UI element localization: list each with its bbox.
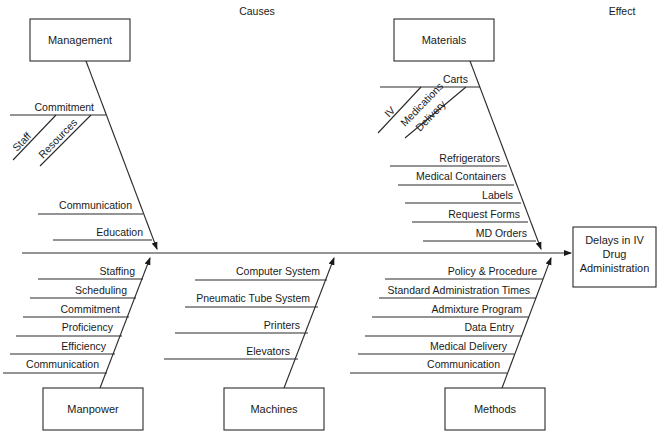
effect-label-line2: Drug bbox=[603, 248, 627, 260]
cause-label-admixture-program: Admixture Program bbox=[432, 303, 523, 315]
cause-label-labels: Labels bbox=[482, 189, 513, 201]
effect-label-line1: Delays in IV bbox=[585, 234, 644, 246]
cause-label-data-entry: Data Entry bbox=[464, 321, 514, 333]
cause-label-printers: Printers bbox=[264, 319, 300, 331]
subcause-label-staff: Staff bbox=[10, 130, 34, 154]
cause-label-scheduling: Scheduling bbox=[75, 284, 127, 296]
category-manpower: Manpower Staffing Scheduling Commitment … bbox=[3, 258, 150, 430]
category-machines: Machines Computer System Pneumatic Tube … bbox=[164, 258, 334, 430]
category-methods: Methods Policy & Procedure Standard Admi… bbox=[350, 258, 551, 430]
cause-label-elevators: Elevators bbox=[246, 345, 290, 357]
cause-label-carts: Carts bbox=[443, 73, 468, 85]
cause-label-request-forms: Request Forms bbox=[448, 208, 520, 220]
cause-label-medical-containers: Medical Containers bbox=[416, 170, 506, 182]
cause-label-education: Education bbox=[96, 226, 143, 238]
cause-label-communication: Communication bbox=[59, 199, 132, 211]
causes-header: Causes bbox=[239, 5, 275, 17]
cause-label-commitment: Commitment bbox=[60, 303, 120, 315]
management-bone bbox=[86, 61, 157, 249]
cause-label-commitment: Commitment bbox=[34, 101, 94, 113]
cause-label-efficiency: Efficiency bbox=[61, 340, 106, 352]
effect-header: Effect bbox=[609, 5, 636, 17]
effect-label-line3: Administration bbox=[580, 262, 650, 274]
category-management: Management Commitment Staff Resources Co… bbox=[10, 19, 157, 249]
cause-label-policy-procedure: Policy & Procedure bbox=[448, 265, 537, 277]
effect-box: Delays in IV Drug Administration bbox=[573, 227, 656, 287]
cause-label-md-orders: MD Orders bbox=[476, 227, 527, 239]
cause-label-computer-system: Computer System bbox=[236, 265, 320, 277]
cause-label-staffing: Staffing bbox=[100, 265, 136, 277]
cause-label-communication: Communication bbox=[26, 358, 99, 370]
methods-label: Methods bbox=[474, 403, 517, 415]
machines-label: Machines bbox=[250, 403, 298, 415]
fishbone-diagram: Causes Effect Delays in IV Drug Administ… bbox=[0, 0, 662, 438]
cause-label-proficiency: Proficiency bbox=[62, 321, 114, 333]
materials-label: Materials bbox=[422, 34, 467, 46]
management-label: Management bbox=[48, 34, 112, 46]
manpower-label: Manpower bbox=[67, 403, 119, 415]
cause-label-refrigerators: Refrigerators bbox=[439, 152, 500, 164]
subcause-label-resources: Resources bbox=[36, 116, 80, 160]
cause-label-communication: Communication bbox=[427, 358, 500, 370]
subcause-label-iv: IV bbox=[382, 104, 398, 119]
cause-label-medical-delivery: Medical Delivery bbox=[430, 340, 508, 352]
cause-label-standard-administration-times: Standard Administration Times bbox=[388, 284, 530, 296]
category-materials: Materials Carts IV Medications Delivery … bbox=[378, 19, 541, 249]
cause-label-pneumatic-tube-system: Pneumatic Tube System bbox=[196, 292, 310, 304]
